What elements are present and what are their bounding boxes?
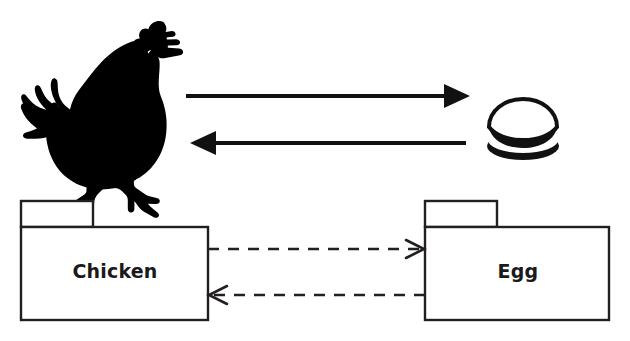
package-egg-label: Egg (498, 260, 539, 282)
diagram-canvas: Chicken Egg (0, 0, 630, 341)
package-layer (0, 0, 630, 341)
dependency-arrow-chicken-to-egg (208, 240, 424, 258)
dependency-arrow-egg-to-chicken (209, 286, 425, 304)
package-chicken-label: Chicken (72, 260, 157, 282)
